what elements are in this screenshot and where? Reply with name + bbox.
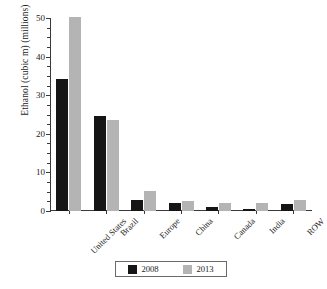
chart-legend: 20082013 — [115, 261, 227, 277]
x-tick-mark — [256, 211, 257, 214]
y-tick-mark — [46, 95, 51, 96]
y-tick-minor-mark — [47, 124, 51, 125]
y-tick-minor-mark — [47, 47, 51, 48]
bar — [169, 203, 181, 211]
x-axis-label: ROW — [305, 216, 326, 237]
x-tick-mark — [69, 211, 70, 214]
y-tick-mark — [46, 57, 51, 58]
y-tick-mark — [46, 211, 51, 212]
legend-swatch-icon — [128, 265, 137, 274]
y-tick-minor-mark — [47, 143, 51, 144]
y-tick-minor-mark — [47, 105, 51, 106]
y-tick-label: 10 — [36, 167, 45, 177]
y-tick-mark — [46, 18, 51, 19]
legend-label: 2013 — [196, 265, 213, 274]
bar — [182, 201, 194, 211]
bar — [107, 120, 119, 211]
legend-entry: 2008 — [128, 265, 158, 274]
y-tick-label: 50 — [36, 13, 45, 23]
bar — [69, 17, 81, 211]
y-tick-mark — [46, 134, 51, 135]
y-tick-minor-mark — [47, 201, 51, 202]
y-tick-minor-mark — [47, 163, 51, 164]
y-tick-mark — [46, 172, 51, 173]
x-axis-label: China — [193, 216, 215, 238]
y-tick-minor-mark — [47, 28, 51, 29]
legend-swatch-icon — [183, 265, 192, 274]
bar — [243, 209, 255, 211]
x-tick-mark — [218, 211, 219, 214]
bar-chart: Ethanol (cubic m) (millions) 01020304050… — [0, 0, 327, 289]
bar — [94, 116, 106, 211]
x-axis-label: Canada — [232, 216, 257, 241]
y-tick-minor-mark — [47, 192, 51, 193]
x-tick-mark — [106, 211, 107, 214]
x-tick-mark — [144, 211, 145, 214]
y-tick-minor-mark — [47, 115, 51, 116]
x-axis-label: Europe — [157, 216, 182, 241]
y-tick-label: 20 — [36, 129, 45, 139]
bar — [219, 203, 231, 211]
x-axis-label: United States — [88, 216, 128, 256]
y-tick-minor-mark — [47, 37, 51, 38]
bar — [131, 200, 143, 211]
y-tick-label: 30 — [36, 90, 45, 100]
bar — [144, 191, 156, 211]
y-tick-label: 0 — [41, 206, 46, 216]
bar — [256, 203, 268, 211]
y-tick-minor-mark — [47, 76, 51, 77]
legend-label: 2008 — [141, 265, 158, 274]
y-tick-label: 40 — [36, 52, 45, 62]
y-axis-title: Ethanol (cubic m) (millions) — [20, 0, 30, 155]
y-tick-minor-mark — [47, 66, 51, 67]
bar — [56, 79, 68, 211]
bar — [294, 200, 306, 211]
bar — [281, 204, 293, 211]
plot-area: 01020304050 — [50, 18, 312, 211]
bar — [206, 207, 218, 211]
legend-entry: 2013 — [183, 265, 213, 274]
y-tick-minor-mark — [47, 182, 51, 183]
y-tick-minor-mark — [47, 153, 51, 154]
x-tick-mark — [181, 211, 182, 214]
y-tick-minor-mark — [47, 86, 51, 87]
x-tick-mark — [293, 211, 294, 214]
x-axis-label: India — [267, 216, 287, 236]
